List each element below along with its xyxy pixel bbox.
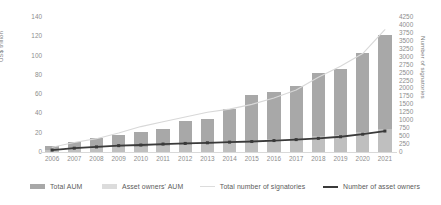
legend-label: Number of asset owners [343, 183, 420, 190]
x-axis-tick: 2015 [240, 156, 264, 162]
x-axis-tick: 2017 [284, 156, 308, 162]
line-marker [51, 149, 54, 152]
line-marker [206, 141, 209, 144]
y-axis-right-tick: 1500 [399, 101, 413, 107]
line-total-signatories [52, 30, 385, 148]
x-axis-tick: 2012 [173, 156, 197, 162]
x-axis-tick: 2010 [129, 156, 153, 162]
x-axis-tick: 2018 [306, 156, 330, 162]
y-axis-right-tick: 2250 [399, 78, 413, 84]
x-axis-tick: 2021 [373, 156, 397, 162]
y-axis-right-tick: 2750 [399, 62, 413, 68]
y-axis-right-tick: 1250 [399, 109, 413, 115]
x-axis-tick: 2008 [84, 156, 108, 162]
line-marker [162, 143, 165, 146]
x-axis-tick: 2013 [195, 156, 219, 162]
line-marker [117, 144, 120, 147]
x-axis-tick: 2011 [151, 156, 175, 162]
legend-item-total-signatories[interactable]: Total number of signatories [200, 183, 305, 190]
chart-container: US$ trillion Number of signatories 14012… [0, 0, 441, 205]
line-marker [139, 144, 142, 147]
line-marker [317, 137, 320, 140]
x-axis-tick: 2020 [351, 156, 375, 162]
line-marker [250, 140, 253, 143]
line-number-asset-owners [52, 131, 385, 150]
legend-swatch-bar-icon [30, 184, 45, 189]
y-axis-right-tick: 1750 [399, 93, 413, 99]
line-marker [339, 135, 342, 138]
legend-swatch-bar-icon [102, 184, 117, 189]
x-axis-line [41, 152, 397, 153]
y-axis-right-tick: 2000 [399, 85, 413, 91]
chart-legend: Total AUM Asset owners' AUM Total number… [30, 183, 420, 190]
y-axis-right-title: Number of signatories [420, 36, 427, 146]
lines-layer [41, 17, 396, 152]
x-axis-tick: 2016 [262, 156, 286, 162]
x-axis-tick: 2009 [107, 156, 131, 162]
legend-label: Total AUM [50, 183, 82, 190]
line-marker [383, 130, 386, 133]
y-axis-right-tick: 250 [399, 141, 410, 147]
y-axis-right-tick: 3250 [399, 46, 413, 52]
y-axis-right-tick: 750 [399, 125, 410, 131]
legend-item-asset-owners-aum[interactable]: Asset owners' AUM [102, 183, 183, 190]
legend-label: Total number of signatories [220, 183, 305, 190]
legend-swatch-line-icon [200, 186, 215, 187]
legend-swatch-line-icon [323, 186, 338, 188]
y-axis-right-tick: 0 [399, 149, 403, 155]
line-marker [73, 147, 76, 150]
y-axis-right-tick: 4250 [399, 14, 413, 20]
line-marker [184, 142, 187, 145]
y-axis-right-tick: 4000 [399, 22, 413, 28]
plot-area [41, 17, 396, 152]
x-axis-tick: 2014 [218, 156, 242, 162]
y-axis-right-tick: 3500 [399, 38, 413, 44]
line-marker [95, 145, 98, 148]
line-marker [272, 139, 275, 142]
legend-label: Asset owners' AUM [122, 183, 183, 190]
line-marker [228, 141, 231, 144]
legend-item-total-aum[interactable]: Total AUM [30, 183, 82, 190]
x-axis-tick: 2007 [62, 156, 86, 162]
line-marker [295, 138, 298, 141]
x-axis-tick: 2019 [329, 156, 353, 162]
line-marker [361, 133, 364, 136]
y-axis-left-title: US$ trillion [0, 0, 4, 62]
legend-item-number-asset-owners[interactable]: Number of asset owners [323, 183, 420, 190]
y-axis-right-tick: 2500 [399, 70, 413, 76]
y-axis-right-tick: 3000 [399, 54, 413, 60]
y-axis-right-tick: 1000 [399, 117, 413, 123]
y-axis-right-tick: 500 [399, 133, 410, 139]
x-axis-tick: 2006 [40, 156, 64, 162]
y-axis-right-tick: 3750 [399, 30, 413, 36]
